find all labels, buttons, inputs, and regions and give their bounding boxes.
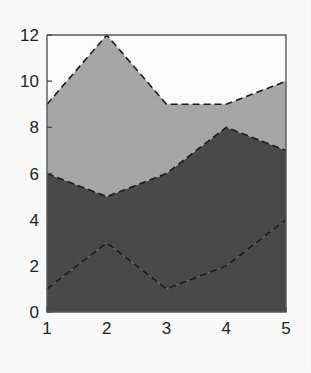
y-tick-label: 6 (30, 165, 39, 184)
x-axis-tick-labels: 12345 (42, 319, 290, 338)
chart-figure: 024681012 12345 (0, 0, 311, 373)
x-tick-label: 4 (222, 319, 231, 338)
x-tick-label: 3 (162, 319, 171, 338)
y-tick-label: 10 (20, 72, 39, 91)
stacked-area-chart: 024681012 12345 (0, 0, 311, 373)
y-axis-tick-labels: 024681012 (20, 26, 39, 322)
y-tick-label: 8 (30, 118, 39, 137)
y-tick-label: 4 (30, 211, 39, 230)
y-tick-label: 12 (20, 26, 39, 45)
x-tick-label: 5 (281, 319, 290, 338)
y-tick-label: 0 (30, 303, 39, 322)
x-tick-label: 2 (102, 319, 111, 338)
x-tick-label: 1 (42, 319, 51, 338)
y-tick-label: 2 (30, 257, 39, 276)
